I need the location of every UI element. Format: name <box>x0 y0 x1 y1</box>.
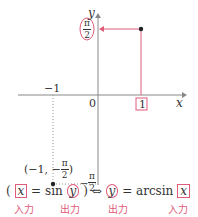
lower-point-label: (−1, − π 2 ) <box>24 159 73 180</box>
x-axis-label: x <box>176 96 183 110</box>
input-label-1: 入力 <box>14 201 34 216</box>
input-x-box: x <box>15 184 28 198</box>
input-label-2: 入力 <box>168 201 188 216</box>
lower-point-den: 2 <box>62 171 68 180</box>
y-tick-pi-over-2: π 2 <box>83 19 91 40</box>
y-tick-top-denominator: 2 <box>84 31 90 40</box>
output-y-circle: y <box>67 184 80 198</box>
output-label-2: 出力 <box>108 201 128 216</box>
x-tick-one: 1 <box>139 98 146 111</box>
lower-point-prefix: (−1, − <box>24 163 61 176</box>
y-tick-top-numerator: π <box>84 19 90 28</box>
lower-point-fraction: π 2 <box>61 159 69 180</box>
output-y-circle-2: y <box>106 184 119 198</box>
iff-symbol: ⇔ <box>88 184 106 198</box>
y-tick-bottom-numerator: π <box>89 172 95 181</box>
output-label-1: 出力 <box>60 201 80 216</box>
origin-label: 0 <box>89 97 96 110</box>
lower-point-num: π <box>62 159 68 168</box>
open-paren: ( <box>6 184 11 198</box>
x-tick-neg-one: −1 <box>44 82 60 95</box>
lower-point-suffix: ) <box>69 163 73 176</box>
formula: ( x = sin y ) ⇔ y = arcsin x <box>6 184 190 198</box>
sin-text: = sin <box>27 184 62 198</box>
input-x-box-2: x <box>177 184 190 198</box>
arcsin-text: = arcsin <box>118 184 173 198</box>
